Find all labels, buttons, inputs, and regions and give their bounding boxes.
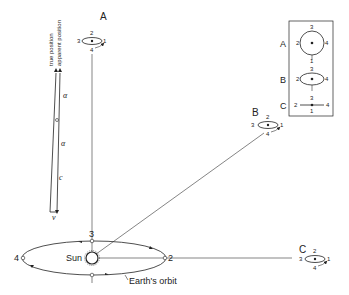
sun-label: Sun [66,253,82,263]
star-a-direction-arrow-icon [95,44,103,48]
star-a-point-4: 4 [90,47,94,53]
v-label: v [52,213,56,222]
star-b-sightline [92,133,264,257]
star-a-point-3: 3 [77,38,81,44]
star-c-label: C [299,244,306,255]
true-position-line [50,73,56,212]
star-c-point-3: 3 [299,256,303,262]
inset-a-left: 2 [296,40,300,46]
earth-position-1-icon [90,273,94,277]
apparent-position-line [57,73,60,212]
star-c-point-4: 4 [313,265,317,271]
orbit-arrow-right-icon [149,246,153,249]
earth-position-4-label: 4 [14,253,19,263]
apparent-position-label: apparent position [56,20,62,66]
inset-a-bottom: 1 [310,58,314,64]
star-c-path: C 2 3 1 4 [167,244,331,271]
earth-position-4-icon [21,256,25,260]
earth-position-2-label: 2 [168,253,173,263]
star-a-center-icon [91,40,93,42]
observer-point-icon [56,119,59,122]
inset-a-center-icon [311,42,314,45]
alpha-label-top: α [63,91,68,100]
star-a-point-1: 1 [103,38,107,44]
alpha-label-bottom: α [61,139,66,148]
aberration-diagram: true position apparent position α α c v … [0,0,349,295]
star-a-label: A [100,11,107,22]
inset-c-right: 4 [326,102,330,108]
inset-c-bottom: 1 [310,108,314,114]
true-position-label: true position [48,33,54,66]
star-b-point-2: 2 [266,114,270,120]
c-label: c [59,173,63,182]
sun: Sun [66,251,100,266]
inset-a-label: A [280,39,286,49]
true-position-arrow-icon [54,68,58,72]
star-b-point-1: 1 [280,122,284,128]
star-c-point-2: 2 [313,248,317,254]
inset-b-right: 4 [325,76,329,82]
inset-c-center-icon [311,104,314,107]
earth-position-3-icon [90,239,94,243]
inset-c-top: 3 [310,95,314,101]
star-c-center-icon [314,258,316,260]
sun-icon [86,252,98,264]
inset-b-label: B [280,75,286,85]
earth-position-3-label: 3 [89,229,94,239]
aberration-triangle: true position apparent position α α c v [48,20,68,222]
star-b-point-3: 3 [251,122,255,128]
inset-a-top: 3 [310,24,314,30]
inset-a-right: 4 [325,40,329,46]
earth-orbit-label: Earth's orbit [129,276,177,286]
inset-b-center-icon [311,78,314,81]
earth-position-2-icon [163,256,167,260]
star-c-point-1: 1 [327,256,331,262]
orbit-label-leader [125,275,128,280]
apparent-position-arrow-icon [58,68,62,72]
star-b-point-4: 4 [266,131,270,137]
star-b-direction-arrow-icon [271,128,279,132]
star-b-label: B [252,107,259,118]
inset-c-left: 2 [294,102,298,108]
inset-b-left: 2 [296,76,300,82]
earth-orbit: Sun 3 2 4 Earth's orbit [14,229,177,286]
star-b-center-icon [267,124,269,126]
star-c-direction-arrow-icon [318,262,326,266]
inset-c-label: C [280,101,287,111]
inset-b-top: 3 [310,66,314,72]
inset-panel: A 3 2 4 1 B 3 2 4 C 3 2 4 1 [280,21,333,116]
star-b-path: B 2 3 1 4 [92,107,284,257]
star-a-point-2: 2 [90,30,94,36]
star-a-path: A 2 3 1 4 [77,11,107,254]
